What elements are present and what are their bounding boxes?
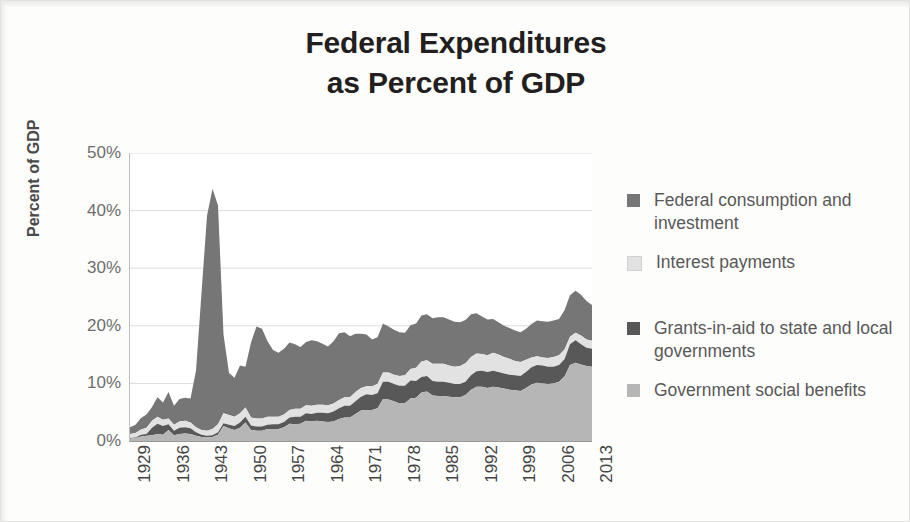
- legend-swatch-grants-in-aid: [627, 322, 640, 335]
- legend-swatch-interest-payments: [627, 256, 642, 271]
- x-tick-label: 1999: [520, 445, 540, 483]
- x-tick-label: 1985: [443, 445, 463, 483]
- legend-item[interactable]: Interest payments: [627, 251, 899, 274]
- title-line-1: Federal Expenditures: [1, 23, 910, 63]
- y-tick-label: 20%: [65, 316, 121, 336]
- plot-area: [129, 153, 592, 442]
- y-tick-label: 10%: [65, 373, 121, 393]
- y-axis-tick-labels: 50%40%30%20%10%0%: [63, 1, 121, 522]
- x-tick-label: 1936: [174, 445, 194, 483]
- x-tick-label: 1929: [135, 445, 155, 483]
- y-tick-label: 50%: [65, 143, 121, 163]
- legend-swatch-federal-consumption: [627, 194, 640, 207]
- x-tick-label: 1950: [251, 445, 271, 483]
- chart-legend: Federal consumption and investmentIntere…: [627, 189, 899, 418]
- legend-item[interactable]: Government social benefits: [627, 379, 899, 402]
- page-title: Federal Expenditures as Percent of GDP: [1, 23, 910, 103]
- y-tick-label: 40%: [65, 201, 121, 221]
- x-tick-label: 1992: [482, 445, 502, 483]
- y-tick-label: 0%: [65, 431, 121, 451]
- chart-figure: Federal Expenditures as Percent of GDP P…: [0, 0, 910, 522]
- legend-item-label: Federal consumption and investment: [654, 189, 899, 235]
- x-axis-tick-labels: 1929193619431950195719641971197819851992…: [129, 445, 591, 522]
- legend-item-label: Grants-in-aid to state and local governm…: [654, 317, 899, 363]
- x-tick-label: 2013: [597, 445, 617, 483]
- x-tick-label: 1978: [405, 445, 425, 483]
- x-tick-label: 1971: [366, 445, 386, 483]
- title-line-2: as Percent of GDP: [1, 63, 910, 103]
- y-tick-label: 30%: [65, 258, 121, 278]
- y-axis-title: Percent of GDP: [25, 37, 43, 237]
- stacked-area-chart: [130, 153, 592, 441]
- legend-item-label: Interest payments: [656, 251, 795, 274]
- legend-item-label: Government social benefits: [654, 379, 866, 402]
- legend-item[interactable]: Grants-in-aid to state and local governm…: [627, 317, 899, 363]
- x-tick-label: 1943: [212, 445, 232, 483]
- x-tick-label: 1964: [328, 445, 348, 483]
- x-tick-label: 2006: [559, 445, 579, 483]
- legend-swatch-social-benefits: [627, 384, 640, 397]
- legend-item[interactable]: Federal consumption and investment: [627, 189, 899, 235]
- x-tick-label: 1957: [289, 445, 309, 483]
